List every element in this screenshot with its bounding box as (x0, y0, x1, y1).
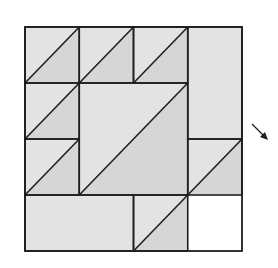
bottom-left-rect-fill (25, 195, 134, 251)
arrow-down-right-icon (252, 124, 268, 140)
right-column-rect-fill (188, 27, 242, 139)
quilt-diagram (0, 0, 278, 268)
